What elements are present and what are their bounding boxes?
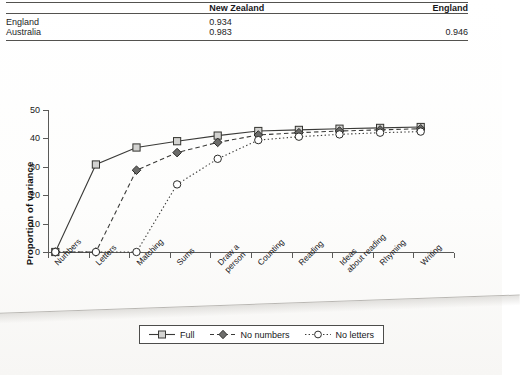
cell-england-england bbox=[385, 17, 468, 27]
row-label-england: England bbox=[6, 17, 209, 27]
data-table: New Zealand England England 0.934 Austra… bbox=[6, 2, 468, 41]
chart-legend: Full No numbers No letters bbox=[139, 325, 384, 344]
legend-marker-open-circle-icon bbox=[305, 329, 331, 340]
data-point-marker bbox=[173, 181, 180, 188]
row-label-australia: Australia bbox=[6, 27, 209, 37]
table-header-row: New Zealand England bbox=[6, 3, 468, 14]
data-point-marker bbox=[92, 161, 99, 168]
data-point-marker bbox=[214, 155, 221, 162]
table-bottom-rule bbox=[6, 37, 468, 41]
data-point-marker bbox=[52, 248, 59, 255]
data-point-marker bbox=[92, 248, 99, 255]
table-header-blank bbox=[6, 3, 209, 14]
data-point-marker bbox=[133, 248, 140, 255]
legend-label-no-letters: No letters bbox=[336, 330, 375, 340]
data-point-marker bbox=[174, 138, 181, 145]
table-row: Australia 0.983 0.946 bbox=[6, 27, 468, 37]
series-line-full bbox=[55, 127, 420, 252]
data-point-marker bbox=[376, 129, 383, 136]
table-row: England 0.934 bbox=[6, 17, 468, 27]
table-header-england: England bbox=[385, 3, 468, 14]
legend-item-no-numbers: No numbers bbox=[210, 329, 290, 340]
legend-item-no-letters: No letters bbox=[305, 329, 375, 340]
cell-england-new-zealand: 0.934 bbox=[209, 17, 385, 27]
table-header-new-zealand: New Zealand bbox=[209, 3, 385, 14]
data-point-marker bbox=[336, 131, 343, 138]
series-line-no-letters bbox=[55, 132, 420, 252]
legend-label-full: Full bbox=[180, 330, 195, 340]
legend-item-full: Full bbox=[149, 329, 195, 340]
data-point-marker bbox=[133, 144, 140, 151]
data-point-marker bbox=[255, 136, 262, 143]
data-table-container: New Zealand England England 0.934 Austra… bbox=[0, 2, 502, 41]
cell-australia-england: 0.946 bbox=[385, 27, 468, 37]
series-plot-area bbox=[0, 96, 502, 296]
data-point-marker bbox=[173, 148, 182, 157]
series-line-no-numbers bbox=[55, 129, 420, 252]
legend-marker-filled-diamond-icon bbox=[210, 329, 236, 340]
legend-marker-open-square-icon bbox=[149, 329, 175, 340]
cell-australia-new-zealand: 0.983 bbox=[209, 27, 385, 37]
data-point-marker bbox=[132, 166, 141, 175]
data-point-marker bbox=[295, 133, 302, 140]
data-point-marker bbox=[417, 128, 424, 135]
legend-label-no-numbers: No numbers bbox=[241, 330, 290, 340]
